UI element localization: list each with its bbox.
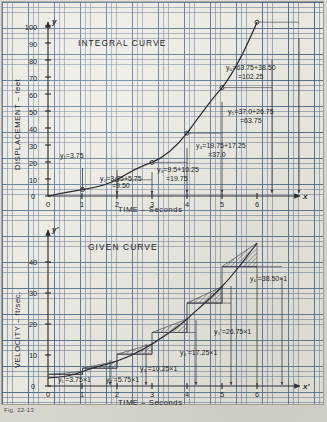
panel-given-curve: y' x' 0 10 20 30 40 0 1 2 3 4 xyxy=(0,208,327,408)
y-axis-caption-bottom: VELOCITY – ft/sec. xyxy=(13,291,22,368)
x-tick-label: 1 xyxy=(80,390,84,399)
annotation-y6-bottom: y₆'=38.50×1 xyxy=(250,275,287,283)
given-curve-path xyxy=(48,243,257,378)
x-tick-label: 0 xyxy=(46,390,50,399)
annotation-y5-bottom: y₅'=26.75×1 xyxy=(214,328,251,336)
annotation-y3-bottom: y₃'=10.25×1 xyxy=(140,365,177,373)
annotation-y1-top: y₁=3.75 xyxy=(60,152,84,160)
y-tick-label: 80 xyxy=(29,57,37,66)
x-tick-label: 6 xyxy=(255,390,259,399)
annotation-y6-top-line1: y₆=63.75+38.50 xyxy=(226,64,276,72)
y-tick-group-top: 0 10 20 30 40 50 60 70 80 90 100 xyxy=(25,23,51,201)
x-tick-label: 4 xyxy=(185,390,189,399)
annotation-y6-top-line2: =102.25 xyxy=(238,73,264,80)
x-axis-caption-bottom: TIME – Seconds xyxy=(118,398,183,407)
annotation-y2-bottom: y₂'=5.75×1 xyxy=(106,376,139,384)
annotation-y3-top-line2: =19.75 xyxy=(166,175,188,182)
x-axis-symbol-top: x xyxy=(302,192,308,201)
y-tick-label: 70 xyxy=(29,74,37,83)
panel-title-given: GIVEN CURVE xyxy=(88,242,158,252)
dimension-arrows-bottom xyxy=(110,267,282,385)
y-tick-label: 40 xyxy=(29,258,37,267)
y-tick-label: 10 xyxy=(29,176,37,185)
y-tick-label: 30 xyxy=(29,142,37,151)
y-tick-label: 20 xyxy=(29,320,37,329)
y-tick-label: 30 xyxy=(29,289,37,298)
panel-integral-curve: y x 0 10 20 30 40 50 60 70 80 90 100 xyxy=(0,0,327,212)
y-tick-label: 0 xyxy=(31,192,35,201)
y-tick-label: 40 xyxy=(29,125,37,134)
y-tick-label: 50 xyxy=(29,108,37,117)
annotation-y5-top-line2: =63.75 xyxy=(240,117,262,124)
y-tick-label: 90 xyxy=(29,40,37,49)
annotation-y4-top-line1: y₄=19.75+17.25 xyxy=(196,142,246,150)
hatched-areas xyxy=(48,243,257,374)
figure-root: y x 0 10 20 30 40 50 60 70 80 90 100 xyxy=(0,0,327,422)
y-tick-label: 20 xyxy=(29,159,37,168)
integral-curve-path xyxy=(48,22,257,196)
y-axis-symbol-bottom: y' xyxy=(51,225,59,234)
annotation-y1-bottom: y₁'=3.75×1 xyxy=(58,376,91,384)
y-axis-symbol-top: y xyxy=(51,17,57,26)
y-tick-label: 60 xyxy=(29,91,37,100)
y-tick-label: 100 xyxy=(25,23,37,32)
x-tick-group-bottom: 0 1 2 3 4 5 6 xyxy=(46,383,259,399)
x-tick-label: 5 xyxy=(220,390,224,399)
annotation-y3-top-line1: y₃=9.5+10.25 xyxy=(157,166,199,174)
panel-title-integral: INTEGRAL CURVE xyxy=(78,38,166,48)
y-tick-label: 10 xyxy=(29,351,37,360)
annotation-y2-top-line2: =9.50 xyxy=(112,182,130,189)
y-tick-label: 0 xyxy=(31,382,35,391)
annotation-y4-bottom: y₄'=17.25×1 xyxy=(180,349,217,357)
annotation-y5-top-line1: y₅=37.0+26.75 xyxy=(228,108,274,116)
annotation-y4-top-line2: =37.0 xyxy=(208,151,226,158)
x-axis-symbol-bottom: x' xyxy=(302,382,310,391)
y-axis-caption-top: DISPLACEMENT – feet xyxy=(13,78,22,170)
figure-caption: Fig. 22-13 xyxy=(4,407,34,413)
